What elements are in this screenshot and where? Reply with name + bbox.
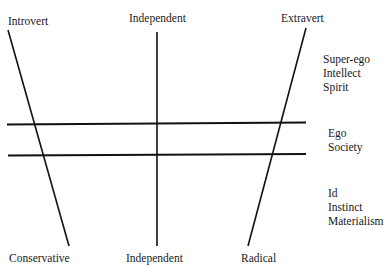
group-ego: Ego Society [328,126,363,154]
label-society: Society [328,140,363,154]
label-independent-top: Independent [129,12,186,24]
label-id: Id [328,186,384,200]
label-independent-bottom: Independent [126,252,183,264]
label-materialism: Materialism [328,214,384,228]
label-ego: Ego [328,126,363,140]
label-intellect: Intellect [323,66,370,80]
introvert-conservative-axis [8,30,69,246]
label-spirit: Spirit [323,80,370,94]
label-extravert: Extravert [281,12,324,24]
label-conservative: Conservative [9,252,70,264]
label-super-ego: Super-ego [323,52,370,66]
group-super-ego: Super-ego Intellect Spirit [323,52,370,94]
label-introvert: Introvert [8,15,48,27]
label-instinct: Instinct [328,200,384,214]
label-radical: Radical [241,252,276,264]
group-id: Id Instinct Materialism [328,186,384,228]
upper-horizontal-line [7,123,306,125]
extravert-radical-axis [248,28,306,246]
lower-horizontal-line [8,154,306,156]
